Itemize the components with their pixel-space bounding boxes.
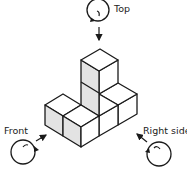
- cube-stack: [45, 49, 137, 147]
- front-view-arrow: [36, 135, 46, 141]
- label-top: Top: [113, 3, 130, 14]
- top-eye-icon: [87, 0, 109, 22]
- front-eye-icon: [11, 140, 39, 164]
- cube-diagram: Top Front Right side: [0, 0, 187, 172]
- label-right-side: Right side: [143, 125, 187, 136]
- right-eye-icon: [145, 142, 171, 166]
- label-front: Front: [4, 125, 28, 136]
